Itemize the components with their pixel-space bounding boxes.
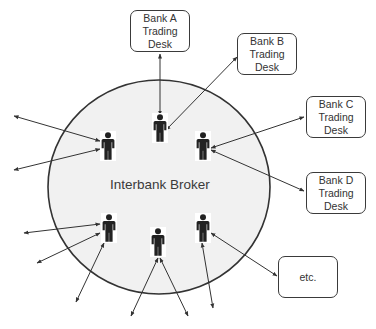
bank-a-box: Bank A Trading Desk xyxy=(130,10,190,52)
person-icon xyxy=(195,131,211,161)
bank-b-box: Bank B Trading Desk xyxy=(237,33,297,75)
person-icon xyxy=(195,213,211,243)
person-icon xyxy=(150,227,166,257)
interbank-broker-label: Interbank Broker xyxy=(110,177,210,192)
person-icon xyxy=(101,213,117,243)
etc-box: etc. xyxy=(278,256,338,298)
person-icon xyxy=(152,113,168,143)
person-icon xyxy=(100,131,116,161)
bank-c-box: Bank C Trading Desk xyxy=(306,96,366,138)
bank-d-box: Bank D Trading Desk xyxy=(306,172,366,214)
